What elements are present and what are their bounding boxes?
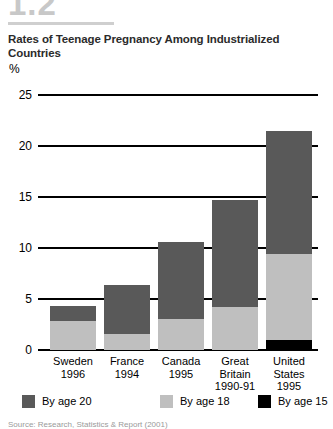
- y-tick-label-5: 5: [0, 293, 32, 305]
- bar-segment-by-age-20: [266, 131, 312, 254]
- bar-segment-by-age-20: [50, 306, 96, 321]
- legend-swatch-icon: [258, 395, 271, 408]
- x-tick-label-line: States: [257, 368, 321, 381]
- bar-canada[interactable]: [158, 242, 204, 350]
- x-tick-label-line: 1995: [257, 380, 321, 393]
- y-tick-label-10: 10: [0, 242, 32, 254]
- legend-label: By age 20: [42, 395, 92, 407]
- bar-segment-by-age-20: [104, 285, 150, 334]
- bar-segment-by-age-15: [266, 340, 312, 350]
- x-tick-label-line: United: [257, 355, 321, 368]
- y-tick-label-25: 25: [0, 89, 32, 101]
- bar-segment-by-age-18: [104, 334, 150, 350]
- bar-segment-by-age-18: [212, 307, 258, 350]
- legend-item-by-age-15[interactable]: By age 15: [258, 393, 328, 409]
- bar-segment-by-age-20: [158, 242, 204, 320]
- bar-sweden[interactable]: [50, 306, 96, 350]
- plot-area: 0510152025Sweden1996France1994Canada1995…: [0, 0, 333, 360]
- bar-segment-by-age-18: [50, 321, 96, 350]
- bar-great-britain[interactable]: [212, 200, 258, 350]
- legend-swatch-icon: [22, 395, 35, 408]
- bar-united-states[interactable]: [266, 131, 312, 350]
- legend-label: By age 18: [180, 395, 230, 407]
- bar-france[interactable]: [104, 285, 150, 350]
- gridline-25: [38, 94, 318, 96]
- legend-label: By age 15: [278, 395, 328, 407]
- y-tick-label-20: 20: [0, 140, 32, 152]
- y-tick-label-0: 0: [0, 344, 32, 356]
- bar-segment-by-age-18: [158, 319, 204, 350]
- legend-swatch-icon: [160, 395, 173, 408]
- x-tick-label-united-states: UnitedStates1995: [257, 355, 321, 393]
- legend-item-by-age-20[interactable]: By age 20: [22, 393, 92, 409]
- y-tick-label-15: 15: [0, 191, 32, 203]
- source-note: Source: Research, Statistics & Report (2…: [8, 420, 168, 429]
- bar-segment-by-age-20: [212, 200, 258, 307]
- legend-item-by-age-18[interactable]: By age 18: [160, 393, 230, 409]
- chart-legend: By age 20By age 18By age 15: [0, 393, 333, 411]
- bar-segment-by-age-18: [266, 254, 312, 340]
